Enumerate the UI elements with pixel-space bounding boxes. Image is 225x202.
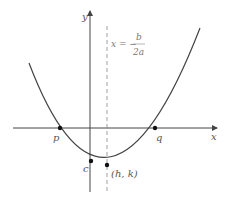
point-vertex	[105, 163, 109, 167]
symmetry-equation-numerator: b	[136, 32, 142, 42]
point-q	[153, 126, 157, 130]
y-axis-label: y	[81, 11, 88, 22]
label-c: c	[83, 163, 89, 174]
parabola-diagram: y x p q c (h, k) x = − b 2a	[0, 0, 225, 202]
label-vertex: (h, k)	[111, 168, 138, 179]
point-p	[58, 126, 62, 130]
label-p: p	[53, 132, 60, 143]
label-q: q	[156, 132, 162, 143]
point-c	[89, 159, 93, 163]
symmetry-equation-denominator: 2a	[132, 47, 144, 57]
x-axis-label: x	[211, 131, 217, 142]
